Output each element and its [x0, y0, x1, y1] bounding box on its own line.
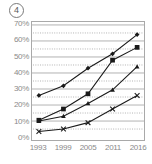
y-tick-label: 70%: [14, 20, 29, 28]
y-tick-label: 50%: [14, 53, 29, 61]
data-point-square: [110, 58, 115, 63]
y-tick-label: 40%: [14, 69, 29, 77]
data-point-square: [61, 107, 66, 112]
chart-svg: [32, 22, 144, 140]
x-axis-tick-labels: 19931999200520112016: [31, 143, 145, 157]
y-axis-tick-labels: 0%10%20%30%40%50%60%70%: [0, 18, 31, 144]
data-point-square: [86, 91, 91, 96]
data-point-square: [135, 45, 140, 50]
series-line-2: [39, 47, 137, 120]
x-tick-label: 2005: [80, 143, 97, 152]
x-tick-label: 1993: [30, 143, 47, 152]
x-tick-label: 2016: [130, 143, 147, 152]
figure-number-badge: 4: [9, 3, 24, 18]
y-tick-label: 30%: [14, 85, 29, 93]
y-tick-label: 10%: [14, 118, 29, 126]
figure-container: 4 0%10%20%30%40%50%60%70% 19931999200520…: [0, 0, 152, 164]
data-point-cross-x: [110, 107, 115, 112]
data-point-triangle: [135, 64, 140, 68]
y-tick-label: 60%: [14, 36, 29, 44]
x-tick-label: 2011: [105, 143, 121, 152]
chart-plot-area: [31, 21, 145, 141]
data-point-triangle: [61, 114, 66, 118]
minor-gridlines: [33, 33, 143, 129]
data-point-triangle: [86, 101, 91, 105]
y-tick-label: 0%: [18, 134, 29, 142]
major-gridlines: [32, 25, 144, 121]
y-tick-label: 20%: [14, 101, 29, 109]
x-tick-label: 1999: [55, 143, 72, 152]
